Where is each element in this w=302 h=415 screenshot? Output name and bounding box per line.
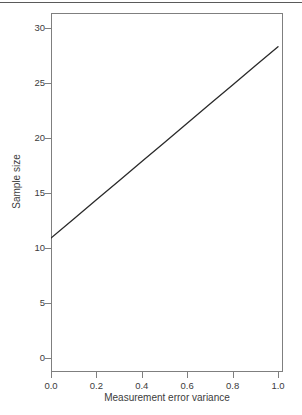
plot-data-area [51, 13, 283, 372]
x-axis-title: Measurement error variance [51, 392, 283, 403]
x-axis-tick-mark [51, 372, 52, 378]
x-axis-tick-mark [96, 372, 97, 378]
y-axis-tick-mark [45, 303, 51, 304]
x-axis-tick-label: 0.2 [76, 380, 116, 391]
y-axis-tick-labels: 051015202530 [0, 0, 45, 415]
y-axis-tick-label: 5 [21, 298, 45, 308]
y-axis-tick-mark [45, 138, 51, 139]
y-axis-tick-mark [45, 358, 51, 359]
x-axis-tick-label: 0.8 [213, 380, 253, 391]
y-axis-tick-label: 0 [21, 353, 45, 363]
y-axis-tick-mark [45, 248, 51, 249]
x-axis-tick-mark [187, 372, 188, 378]
y-axis-tick-label: 25 [21, 78, 45, 88]
chart-figure: 051015202530 Measurement error variance … [0, 0, 302, 415]
y-axis-title: Sample size [11, 122, 22, 242]
x-axis-tick-mark [278, 372, 279, 378]
y-axis-tick-mark [45, 28, 51, 29]
x-axis-tick-mark [142, 372, 143, 378]
y-axis-tick-label: 10 [21, 243, 45, 253]
y-axis-tick-label: 30 [21, 23, 45, 33]
top-divider-rule [0, 2, 302, 3]
x-axis-tick-label: 1.0 [258, 380, 298, 391]
y-axis-tick-mark [45, 83, 51, 84]
data-series-line [51, 47, 278, 238]
x-axis-tick-label: 0.6 [167, 380, 207, 391]
x-axis-tick-mark [233, 372, 234, 378]
x-axis-tick-label: 0.0 [31, 380, 71, 391]
y-axis-tick-mark [45, 193, 51, 194]
y-axis-tick-label: 15 [21, 188, 45, 198]
y-axis-tick-label: 20 [21, 133, 45, 143]
x-axis-tick-label: 0.4 [122, 380, 162, 391]
